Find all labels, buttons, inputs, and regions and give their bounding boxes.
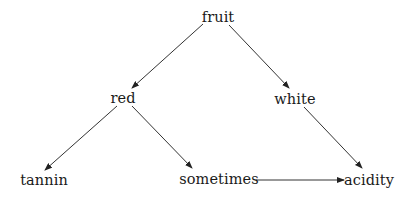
node-red: red xyxy=(110,91,135,106)
node-fruit: fruit xyxy=(202,10,235,25)
edge-white-to-acidity xyxy=(304,107,362,168)
node-sometimes: sometimes xyxy=(179,172,259,187)
edge-red-to-tannin xyxy=(45,106,117,170)
node-white: white xyxy=(274,92,315,107)
node-acidity: acidity xyxy=(344,173,394,188)
edge-fruit-to-white xyxy=(229,25,289,88)
edge-fruit-to-red xyxy=(132,24,203,88)
diagram-canvas: fruit red white tannin sometimes acidity xyxy=(0,0,411,202)
edge-red-to-sometimes xyxy=(132,106,192,168)
node-tannin: tannin xyxy=(20,173,68,188)
